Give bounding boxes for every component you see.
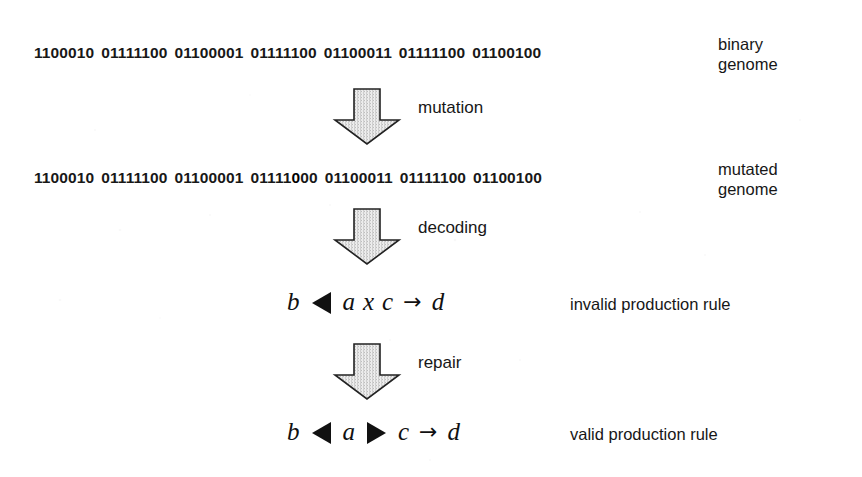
mutated-genome-label: mutated genome xyxy=(718,159,778,199)
mutation-arrow xyxy=(328,88,406,146)
mutated-genome-string: 1100010011111000110000101111000011000110… xyxy=(34,169,542,187)
binary-genome-group: 1100010 xyxy=(34,44,94,61)
binary-genome-group: 01111100 xyxy=(250,44,316,61)
left-triangle-icon xyxy=(312,422,331,444)
invalid-production-rule-label: invalid production rule xyxy=(570,295,731,314)
down-block-arrow-icon xyxy=(328,343,406,401)
rule-var-c: c xyxy=(382,288,393,316)
right-triangle-icon xyxy=(367,422,386,444)
binary-genome-label-line2: genome xyxy=(718,54,778,74)
mutated-genome-group: 01100100 xyxy=(473,169,542,186)
mutated-genome-group: 01111100 xyxy=(400,169,466,186)
binary-genome-string: 1100010011111000110000101111100011000110… xyxy=(34,44,541,62)
rule-var-x: x xyxy=(363,288,374,316)
mutated-genome-group: 01100011 xyxy=(325,169,393,186)
rule-var-d: d xyxy=(448,418,461,446)
mutated-group-prefix: 01111 xyxy=(250,169,291,186)
valid-production-rule-label: valid production rule xyxy=(570,425,718,444)
rule-var-b: b xyxy=(287,418,300,446)
binary-genome-group: 01111100 xyxy=(399,44,465,61)
binary-genome-label-line1: binary xyxy=(718,34,778,54)
rule-var-d: d xyxy=(432,288,445,316)
mutated-genome-label-line2: genome xyxy=(718,179,778,199)
rule-var-c: c xyxy=(398,418,409,446)
repair-arrow xyxy=(328,343,406,401)
invalid-production-rule-expression: b a x c → d xyxy=(283,288,448,316)
binary-genome-group: 01100001 xyxy=(175,44,244,61)
rule-var-a: a xyxy=(343,288,356,316)
mutated-group-suffix: 00 xyxy=(300,169,317,186)
rightwards-arrow-icon: → xyxy=(419,419,437,444)
mutated-genome-group: 01100001 xyxy=(175,169,244,186)
down-block-arrow-icon xyxy=(328,208,406,266)
mutated-genome-group-with-flip: 01111000 xyxy=(250,169,317,186)
down-block-arrow-icon xyxy=(328,88,406,146)
binary-genome-label: binary genome xyxy=(718,34,778,74)
mutated-genome-group: 1100010 xyxy=(34,169,94,186)
rightwards-arrow-icon: → xyxy=(403,289,421,314)
decoding-stage-label: decoding xyxy=(418,218,487,238)
binary-genome-group: 01100011 xyxy=(324,44,392,61)
valid-production-rule-expression: b a c → d xyxy=(283,418,464,446)
repair-stage-label: repair xyxy=(418,353,461,373)
mutation-stage-label: mutation xyxy=(418,98,483,118)
rule-var-a: a xyxy=(343,418,356,446)
mutated-genome-label-line1: mutated xyxy=(718,159,778,179)
binary-genome-group: 01100100 xyxy=(472,44,541,61)
mutated-genome-group: 01111100 xyxy=(101,169,167,186)
left-triangle-icon xyxy=(312,292,331,314)
decoding-arrow xyxy=(328,208,406,266)
rule-var-b: b xyxy=(287,288,300,316)
binary-genome-group: 01111100 xyxy=(101,44,167,61)
mutated-bit: 0 xyxy=(292,169,301,186)
